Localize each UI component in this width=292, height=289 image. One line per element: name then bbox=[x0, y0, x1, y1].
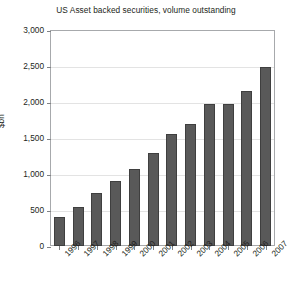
x-axis-tick-label: 2006 bbox=[251, 252, 257, 258]
x-axis-tick-label: 2001 bbox=[157, 252, 163, 258]
y-axis-tick-label: 0 bbox=[0, 242, 44, 250]
x-axis-tick-label: 1996 bbox=[63, 252, 69, 258]
x-axis-tick-label: 2000 bbox=[138, 252, 144, 258]
bar[interactable] bbox=[260, 67, 271, 246]
y-axis-tick-label: 2,000 bbox=[0, 98, 44, 106]
bar[interactable] bbox=[241, 91, 252, 246]
x-axis-tick-label: 2004 bbox=[213, 252, 219, 258]
x-axis-tick-label: 2003 bbox=[195, 252, 201, 258]
bar[interactable] bbox=[166, 134, 177, 246]
x-axis-tick-label: 1999 bbox=[120, 252, 126, 258]
x-axis-tick bbox=[59, 246, 60, 250]
bar[interactable] bbox=[110, 181, 121, 246]
y-axis-tick-label: 1,500 bbox=[0, 134, 44, 142]
x-axis-tick-label: 2002 bbox=[176, 252, 182, 258]
x-axis-tick-label: 1998 bbox=[101, 252, 107, 258]
chart-title: US Asset backed securities, volume outst… bbox=[0, 5, 292, 15]
x-axis-tick-label: 2007 bbox=[270, 252, 276, 258]
x-axis-tick-label: 1997 bbox=[82, 252, 88, 258]
bar[interactable] bbox=[54, 217, 65, 246]
y-axis-tick-label: 500 bbox=[0, 206, 44, 214]
bars-group bbox=[50, 30, 275, 246]
bar[interactable] bbox=[223, 104, 234, 246]
y-axis-tick-label: 1,000 bbox=[0, 170, 44, 178]
y-axis-tick-label: 3,000 bbox=[0, 26, 44, 34]
x-axis-tick-label: 2005 bbox=[232, 252, 238, 258]
bar[interactable] bbox=[129, 169, 140, 246]
y-axis-tick-label: 2,500 bbox=[0, 62, 44, 70]
bar[interactable] bbox=[185, 124, 196, 246]
bar[interactable] bbox=[148, 153, 159, 246]
bar-chart: US Asset backed securities, volume outst… bbox=[0, 0, 292, 289]
y-axis-tick bbox=[47, 247, 51, 248]
bar[interactable] bbox=[204, 104, 215, 246]
